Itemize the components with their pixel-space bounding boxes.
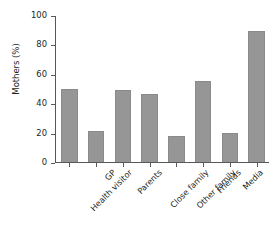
bar [248, 31, 265, 162]
plot-area: 020406080100 [55, 16, 269, 163]
y-tick-label: 20 [36, 128, 47, 139]
x-tick-mark [203, 163, 204, 167]
x-tick-mark [96, 163, 97, 167]
bar [195, 81, 212, 162]
y-tick-label: 60 [36, 69, 47, 80]
y-tick-label-wrap: 0 [51, 163, 52, 164]
bar [61, 89, 78, 163]
y-tick-label: 40 [36, 98, 47, 109]
x-tick-label: Media [241, 168, 265, 192]
x-tick-label: Friends [216, 168, 243, 195]
y-axis-title: Mothers (%) [11, 27, 21, 111]
bar [141, 94, 158, 162]
x-tick-mark [69, 163, 70, 167]
y-tick-label-wrap: 80 [51, 45, 52, 46]
bar [222, 133, 239, 162]
bar [88, 131, 105, 162]
x-tick-label: Parents [136, 168, 164, 196]
y-tick-label-wrap: 40 [51, 104, 52, 105]
y-tick-label-wrap: 60 [51, 75, 52, 76]
bar [115, 90, 132, 162]
x-tick-mark [123, 163, 124, 167]
y-tick-label: 0 [42, 157, 47, 168]
bar [168, 136, 185, 162]
x-tick-mark [230, 163, 231, 167]
x-tick-mark [150, 163, 151, 167]
bar-chart: Mothers (%) 020406080100 Health visitorG… [0, 0, 274, 231]
x-tick-label: Health visitor [89, 168, 134, 213]
x-tick-label: Close family [168, 168, 210, 210]
x-tick-label: GP [103, 168, 117, 182]
y-tick-label-wrap: 100 [51, 16, 52, 17]
bar-series [56, 16, 269, 162]
x-tick-mark [176, 163, 177, 167]
x-tick-mark [257, 163, 258, 167]
x-axis-line [55, 162, 269, 163]
y-tick-label: 80 [36, 39, 47, 50]
x-tick-label: Other family [195, 168, 238, 211]
y-tick-label-wrap: 20 [51, 134, 52, 135]
y-tick-label: 100 [31, 10, 47, 21]
